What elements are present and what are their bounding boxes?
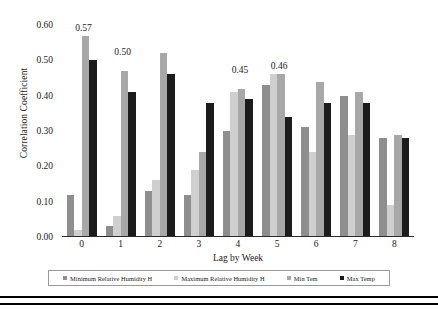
bar[interactable] — [340, 96, 348, 237]
y-axis-tick-label: 0.30 — [36, 126, 53, 136]
legend-label: Minimum Relative Humidity H — [70, 275, 152, 282]
data-label: 0.45 — [232, 65, 249, 75]
bar[interactable] — [89, 60, 97, 237]
bar[interactable] — [301, 127, 309, 237]
bar[interactable] — [277, 74, 285, 237]
bar[interactable] — [355, 92, 363, 237]
bar[interactable] — [316, 82, 324, 237]
y-axis-tick-label: 0.40 — [36, 91, 53, 101]
data-label: 0.50 — [114, 47, 131, 57]
bar[interactable] — [238, 89, 246, 237]
bar[interactable] — [387, 205, 395, 237]
bar-group — [140, 25, 179, 237]
bar[interactable] — [67, 195, 75, 237]
bar[interactable] — [379, 138, 387, 237]
legend-swatch-icon — [174, 276, 178, 280]
bar[interactable] — [191, 170, 199, 237]
legend-label: Maximum Relative Humidity H — [181, 275, 264, 282]
legend-item[interactable]: Min Tem — [287, 275, 318, 282]
y-axis-tick-label: 0.50 — [36, 55, 53, 65]
bar[interactable] — [270, 74, 278, 237]
legend-item[interactable]: Minimum Relative Humidity H — [63, 275, 152, 282]
legend-swatch-icon — [340, 276, 344, 280]
bar[interactable] — [145, 191, 153, 237]
bar[interactable] — [262, 85, 270, 237]
bar[interactable] — [121, 71, 129, 237]
legend-label: Min Tem — [294, 275, 318, 282]
bar[interactable] — [402, 138, 410, 237]
legend-item[interactable]: Max Temp — [340, 275, 375, 282]
bar[interactable] — [363, 103, 371, 237]
bar[interactable] — [285, 117, 293, 237]
bar[interactable] — [223, 131, 231, 237]
y-axis-tick-label: 0.00 — [36, 232, 53, 242]
bar[interactable] — [324, 103, 332, 237]
y-axis-tick-label: 0.10 — [36, 197, 53, 207]
bar[interactable] — [113, 216, 121, 237]
chart-legend: Minimum Relative Humidity HMaximum Relat… — [48, 270, 390, 286]
chart-figure: Correlation Coefficient 0.000.100.200.30… — [0, 0, 438, 309]
bar[interactable] — [206, 103, 214, 237]
y-axis-tick-label: 0.60 — [36, 20, 53, 30]
data-label: 0.57 — [75, 23, 92, 33]
data-label: 0.46 — [271, 61, 288, 71]
bar[interactable] — [167, 74, 175, 237]
x-axis-title: Lag by Week — [62, 253, 414, 263]
bar[interactable] — [82, 36, 90, 237]
legend-swatch-icon — [63, 276, 67, 280]
bar[interactable] — [184, 195, 192, 237]
y-axis-tick-label: 0.20 — [36, 161, 53, 171]
footer-rule-bottom — [0, 303, 438, 305]
bar-group — [218, 25, 257, 237]
bar[interactable] — [394, 135, 402, 237]
bar[interactable] — [199, 152, 207, 237]
bar[interactable] — [152, 180, 160, 237]
bar-group — [375, 25, 414, 237]
bar-group — [336, 25, 375, 237]
legend-swatch-icon — [287, 276, 291, 280]
legend-label: Max Temp — [347, 275, 375, 282]
footer-rule-top — [0, 296, 438, 298]
legend-item[interactable]: Maximum Relative Humidity H — [174, 275, 264, 282]
bar[interactable] — [230, 92, 238, 237]
bar-group — [258, 25, 297, 237]
bar[interactable] — [309, 152, 317, 237]
bar-group — [179, 25, 218, 237]
bar[interactable] — [245, 99, 253, 237]
bar-group — [297, 25, 336, 237]
bar[interactable] — [128, 92, 136, 237]
x-axis-line — [62, 236, 414, 237]
y-axis-tick-labels: 0.000.100.200.300.400.500.60 — [0, 25, 58, 237]
bar[interactable] — [160, 53, 168, 237]
bar[interactable] — [348, 135, 356, 237]
bar-group — [62, 25, 101, 237]
